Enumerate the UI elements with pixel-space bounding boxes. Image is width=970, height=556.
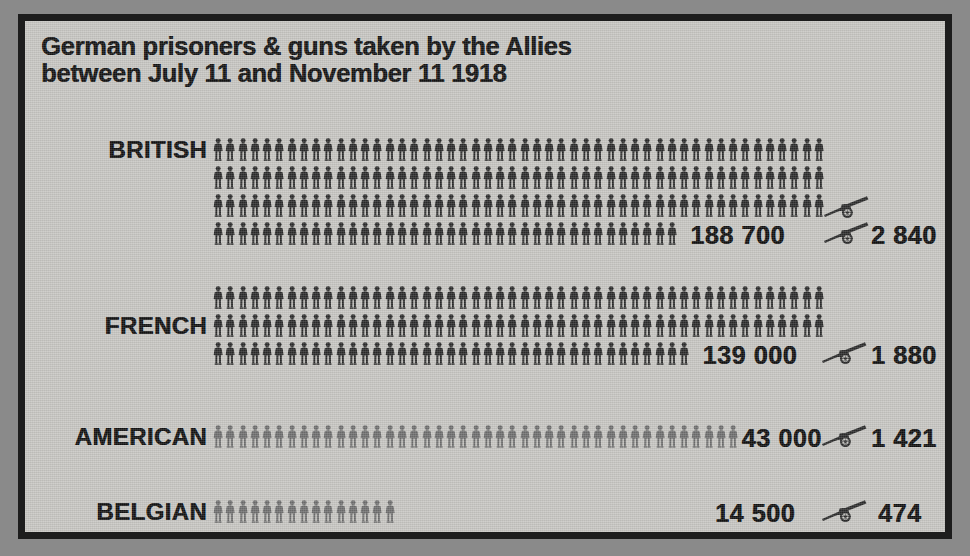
prisoners-count-british: 188 700 [690, 223, 785, 248]
soldier-icon [617, 286, 629, 309]
soldier-icon [249, 500, 261, 523]
soldier-icon [580, 138, 592, 161]
soldier-icon [224, 314, 236, 337]
soldier-icon [273, 286, 285, 309]
soldier-icon [322, 286, 334, 309]
soldier-icon [813, 138, 825, 161]
soldier-icon [273, 166, 285, 189]
soldier-icon [568, 138, 580, 161]
soldier-icon [273, 500, 285, 523]
soldier-icon [666, 222, 678, 245]
soldier-icon [543, 222, 555, 245]
soldier-icon [568, 342, 580, 365]
soldier-icon [433, 194, 445, 217]
soldier-icon [421, 342, 433, 365]
soldier-icon [249, 194, 261, 217]
soldier-icon [580, 166, 592, 189]
soldier-icon [273, 222, 285, 245]
soldier-icon [261, 194, 273, 217]
soldier-icon [531, 138, 543, 161]
soldier-icon [371, 425, 383, 448]
soldier-icon [531, 314, 543, 337]
soldier-icon [727, 425, 739, 448]
soldier-icon [788, 138, 800, 161]
soldier-icon [617, 314, 629, 337]
soldier-icon [506, 425, 518, 448]
soldier-icon [371, 342, 383, 365]
soldier-icon [678, 286, 690, 309]
soldier-icon [335, 222, 347, 245]
soldier-icon [801, 286, 813, 309]
soldier-icon [298, 138, 310, 161]
soldier-icon [237, 222, 249, 245]
soldier-icon [384, 194, 396, 217]
soldier-icon [371, 222, 383, 245]
soldier-icon [322, 425, 334, 448]
soldier-icon [359, 222, 371, 245]
soldier-icon [249, 166, 261, 189]
field-gun-icon [820, 340, 868, 366]
soldier-icon [310, 138, 322, 161]
soldier-icon [654, 286, 666, 309]
soldier-icon [592, 222, 604, 245]
soldier-icon [690, 138, 702, 161]
soldier-icon [543, 342, 555, 365]
soldier-icon [298, 425, 310, 448]
soldier-icon [396, 194, 408, 217]
soldier-icon [433, 314, 445, 337]
soldier-icon [506, 342, 518, 365]
soldier-icon [592, 342, 604, 365]
soldier-icon [421, 314, 433, 337]
soldier-icon [470, 138, 482, 161]
soldier-icon [384, 425, 396, 448]
soldier-icon [813, 314, 825, 337]
soldier-icon [371, 286, 383, 309]
soldier-icon [384, 222, 396, 245]
soldier-icon [445, 425, 457, 448]
soldier-icon [654, 342, 666, 365]
soldier-icon [396, 314, 408, 337]
soldier-icon [678, 138, 690, 161]
soldier-icon [494, 314, 506, 337]
soldier-icon [371, 500, 383, 523]
soldier-icon [629, 166, 641, 189]
soldier-icon [482, 314, 494, 337]
guns-count-belgian: 474 [878, 501, 922, 526]
soldier-icon [629, 138, 641, 161]
soldier-icon [543, 286, 555, 309]
soldier-icon [421, 286, 433, 309]
soldier-icon [690, 194, 702, 217]
soldier-icon [580, 342, 592, 365]
soldier-icon [617, 166, 629, 189]
soldier-icon [322, 166, 334, 189]
soldier-icon [519, 425, 531, 448]
soldier-icon [237, 500, 249, 523]
soldier-icon [654, 314, 666, 337]
soldier-icon [470, 286, 482, 309]
soldier-icon [494, 222, 506, 245]
soldier-icon [629, 222, 641, 245]
soldier-icon [678, 314, 690, 337]
soldier-icon [224, 500, 236, 523]
soldier-icon [543, 166, 555, 189]
soldier-icon [592, 314, 604, 337]
soldier-icon [752, 314, 764, 337]
soldier-icon [641, 314, 653, 337]
soldier-icon [261, 286, 273, 309]
soldier-icon [543, 194, 555, 217]
soldier-icon [531, 425, 543, 448]
soldier-icon [335, 138, 347, 161]
soldier-icon [408, 314, 420, 337]
soldier-icon [531, 342, 543, 365]
soldier-icon [752, 166, 764, 189]
soldier-icon [408, 286, 420, 309]
soldier-icon [408, 342, 420, 365]
soldier-icon [519, 194, 531, 217]
soldier-icon [237, 425, 249, 448]
soldier-icon [273, 314, 285, 337]
soldier-icon [703, 166, 715, 189]
soldier-icon [494, 342, 506, 365]
soldier-icon [421, 166, 433, 189]
soldier-icon [641, 425, 653, 448]
soldier-icon [237, 194, 249, 217]
